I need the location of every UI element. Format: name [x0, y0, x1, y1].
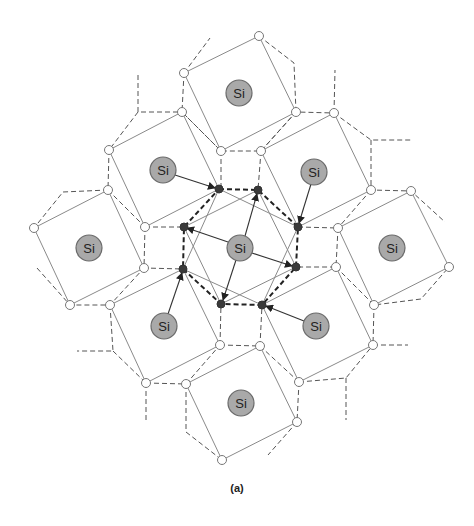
si-atom-top: Si — [226, 80, 252, 106]
svg-text:Si: Si — [308, 165, 320, 180]
svg-text:Si: Si — [386, 241, 398, 256]
si-atom-center: Si — [227, 235, 253, 261]
si-atom-top-right: Si — [301, 159, 327, 185]
silicon-lattice-diagram: Si Si Si Si Si Si Si Si Si — [0, 0, 474, 526]
si-atoms: Si Si Si Si Si Si Si Si Si — [76, 80, 405, 416]
svg-text:Si: Si — [234, 241, 246, 256]
si-atom-left: Si — [76, 235, 102, 261]
si-atom-top-left: Si — [150, 157, 176, 183]
svg-text:Si: Si — [157, 163, 169, 178]
svg-text:Si: Si — [310, 319, 322, 334]
si-atom-bottom-right: Si — [303, 313, 329, 339]
svg-text:Si: Si — [235, 396, 247, 411]
svg-text:Si: Si — [233, 86, 245, 101]
svg-text:Si: Si — [83, 241, 95, 256]
figure-caption: (a) — [0, 482, 474, 494]
svg-text:Si: Si — [158, 319, 170, 334]
si-atom-right: Si — [379, 235, 405, 261]
si-atom-bottom: Si — [228, 390, 254, 416]
si-atom-bottom-left: Si — [151, 313, 177, 339]
